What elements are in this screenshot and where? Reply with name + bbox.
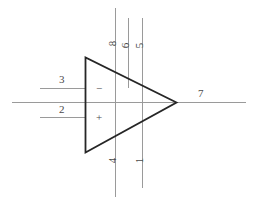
pin-label-8: 8 — [107, 37, 118, 51]
pin-label-6: 6 — [120, 39, 131, 53]
inverting-input-symbol: − — [96, 83, 102, 94]
pin-label-4: 4 — [107, 154, 118, 168]
wire-group — [12, 8, 246, 197]
pin-label-3: 3 — [59, 74, 65, 85]
schematic-drawing — [0, 0, 258, 205]
pin-label-7: 7 — [198, 88, 204, 99]
pin-label-2: 2 — [59, 104, 65, 115]
noninverting-input-symbol: + — [96, 112, 102, 123]
pin-label-5: 5 — [134, 39, 145, 53]
schematic-canvas: − + 3 2 7 8 6 5 4 1 — [0, 0, 258, 205]
pin-label-1: 1 — [134, 154, 145, 168]
opamp-triangle — [86, 58, 177, 153]
